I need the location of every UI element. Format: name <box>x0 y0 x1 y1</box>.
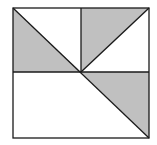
geometry-diagram <box>0 0 157 145</box>
